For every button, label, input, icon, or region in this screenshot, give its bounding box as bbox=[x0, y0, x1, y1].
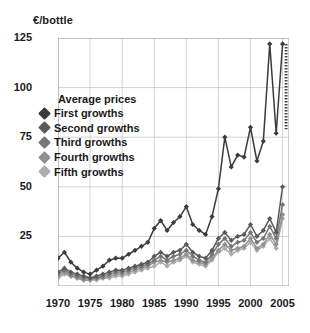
legend-item-fifth-growths[interactable]: Fifth growths bbox=[40, 164, 140, 179]
legend-title: Average prices bbox=[58, 93, 140, 105]
y-tick-25: 25 bbox=[2, 229, 32, 241]
data-point bbox=[248, 125, 253, 130]
legend-item-fourth-growths[interactable]: Fourth growths bbox=[40, 150, 140, 165]
legend-diamond-icon bbox=[38, 151, 51, 164]
y-tick-75: 75 bbox=[2, 130, 32, 142]
data-point bbox=[222, 135, 227, 140]
y-axis-title: €/bottle bbox=[33, 14, 73, 26]
legend-item-label: Third growths bbox=[54, 136, 127, 148]
legend-diamond-icon bbox=[38, 165, 51, 178]
legend-diamond-icon bbox=[38, 136, 51, 149]
legend-diamond-icon bbox=[38, 107, 51, 120]
y-tick-50: 50 bbox=[2, 180, 32, 192]
data-point bbox=[241, 154, 246, 159]
legend-diamond-icon bbox=[38, 122, 51, 135]
data-point bbox=[274, 131, 279, 136]
y-tick-100: 100 bbox=[2, 81, 32, 93]
x-tick-2005: 2005 bbox=[263, 297, 303, 309]
legend-item-second-growths[interactable]: Second growths bbox=[40, 121, 140, 136]
legend-item-label: Second growths bbox=[54, 122, 140, 134]
legend-item-label: Fifth growths bbox=[54, 166, 124, 178]
data-point bbox=[209, 214, 214, 219]
data-point bbox=[280, 184, 285, 189]
chart-legend: Average prices First growthsSecond growt… bbox=[40, 93, 140, 179]
legend-item-first-growths[interactable]: First growths bbox=[40, 106, 140, 121]
data-point bbox=[261, 139, 266, 144]
legend-item-label: Fourth growths bbox=[54, 151, 135, 163]
wine-price-chart: €/bottle 0255075100125 19701975198019851… bbox=[0, 0, 310, 333]
data-point bbox=[113, 256, 118, 261]
legend-item-label: First growths bbox=[54, 107, 124, 119]
data-point bbox=[280, 41, 285, 46]
data-point bbox=[254, 158, 259, 163]
data-point bbox=[267, 41, 272, 46]
legend-item-third-growths[interactable]: Third growths bbox=[40, 135, 140, 150]
y-tick-125: 125 bbox=[2, 31, 32, 43]
